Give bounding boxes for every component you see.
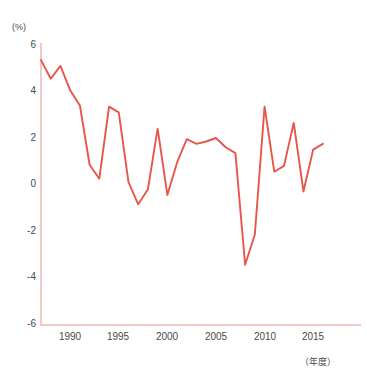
series-line	[41, 60, 323, 265]
x-axis-unit-label: （年度）	[300, 357, 336, 368]
series-plot-area	[0, 0, 367, 385]
line-chart: (%) 6 4 2 0 -2 -4 -6 1990 1995 2000 2005…	[0, 0, 367, 385]
